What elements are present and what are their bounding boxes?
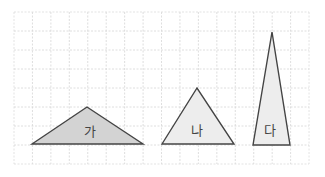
triangle-label-da: 다 [264,120,276,139]
triangle-label-na: 나 [191,120,203,139]
triangle-label-ga: 가 [84,121,96,140]
triangle-grid-diagram [0,0,325,177]
triangles [32,32,290,145]
